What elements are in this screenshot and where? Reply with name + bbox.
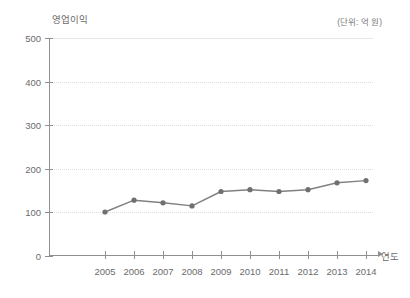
data-point-marker bbox=[334, 180, 339, 185]
data-point-marker bbox=[363, 178, 368, 183]
data-point-marker bbox=[305, 187, 310, 192]
series-line-operating-profit bbox=[105, 181, 366, 212]
data-point-marker bbox=[276, 189, 281, 194]
data-series-layer bbox=[0, 0, 410, 298]
line-chart: 영업이익 (단위: 억 원) 0100200300400500 20052006… bbox=[0, 0, 410, 298]
data-point-marker bbox=[102, 209, 107, 214]
data-point-marker bbox=[247, 187, 252, 192]
data-point-marker bbox=[218, 189, 223, 194]
data-point-marker bbox=[131, 198, 136, 203]
data-point-marker bbox=[189, 203, 194, 208]
series-markers-group bbox=[102, 178, 368, 215]
data-point-marker bbox=[160, 200, 165, 205]
x-axis-title: 연도 bbox=[381, 249, 399, 263]
